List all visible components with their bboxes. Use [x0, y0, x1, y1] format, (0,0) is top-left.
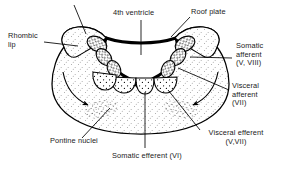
label-rhombic-lip: Rhombiclip [8, 32, 38, 49]
label-rhombic-lip-line2: lip [8, 40, 16, 49]
hindbrain-cross-section-figure: Rhombiclip 4th ventricle Roof plate Soma… [0, 0, 281, 169]
label-visceral-efferent-line2: (V,VII) [226, 137, 247, 146]
label-somatic-afferent-line3: (V, VIII) [236, 58, 261, 67]
label-fourth-ventricle: 4th ventricle [113, 9, 154, 18]
label-visceral-afferent-line3: (VII) [232, 98, 246, 107]
label-visceral-afferent: Visceralafferent(VII) [232, 82, 259, 108]
label-roof-plate: Roof plate [191, 8, 226, 17]
label-pontine-nuclei: Pontine nuclei [50, 137, 98, 146]
label-somatic-efferent: Somatic efferent (VI) [112, 152, 182, 161]
label-somatic-afferent: Somaticafferent(V, VIII) [236, 42, 263, 68]
label-visceral-efferent: Visceral efferent(V,VII) [196, 129, 276, 146]
